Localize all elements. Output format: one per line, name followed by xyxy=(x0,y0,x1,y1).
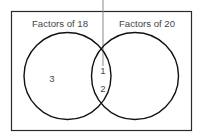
left-only-member-3: 3 xyxy=(49,73,54,84)
venn-svg-canvas: Factors of 18 Factors of 20 3 1 2 xyxy=(0,0,202,139)
intersection-member-2: 2 xyxy=(100,83,105,94)
left-set-label: Factors of 18 xyxy=(32,18,88,29)
venn-diagram-figure: Factors of 18 and 20 Factors of 18 Facto… xyxy=(0,0,202,139)
intersection-member-1: 1 xyxy=(100,65,105,76)
right-set-label: Factors of 20 xyxy=(119,18,175,29)
